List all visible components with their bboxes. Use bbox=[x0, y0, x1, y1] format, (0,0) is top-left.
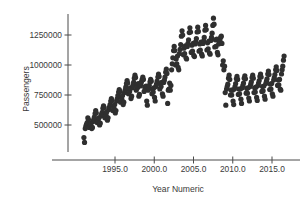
data-point bbox=[251, 76, 256, 81]
data-point bbox=[133, 75, 138, 80]
data-point bbox=[237, 91, 242, 96]
data-point bbox=[204, 27, 209, 32]
data-point bbox=[280, 64, 285, 69]
data-point bbox=[253, 89, 258, 94]
data-point bbox=[219, 34, 224, 39]
data-point bbox=[215, 52, 220, 57]
data-point bbox=[137, 92, 142, 97]
data-point bbox=[235, 77, 240, 82]
x-tick-label: 1995.0 bbox=[102, 164, 128, 174]
data-point bbox=[98, 121, 103, 126]
data-point bbox=[268, 86, 273, 91]
data-point bbox=[184, 56, 189, 61]
data-point bbox=[188, 29, 193, 34]
y-tick-label: 1000000 bbox=[29, 60, 62, 70]
data-point bbox=[145, 103, 150, 108]
data-point bbox=[274, 68, 279, 73]
data-point bbox=[281, 53, 286, 58]
data-point bbox=[169, 67, 174, 72]
x-tick-label: 2005.0 bbox=[181, 164, 207, 174]
data-point bbox=[262, 97, 267, 102]
data-point bbox=[270, 94, 275, 99]
data-point bbox=[225, 82, 230, 87]
data-point bbox=[211, 22, 216, 27]
data-point bbox=[129, 94, 134, 99]
data-point bbox=[243, 76, 248, 81]
data-point bbox=[113, 108, 118, 113]
data-point bbox=[222, 64, 227, 69]
y-tick-label: 500000 bbox=[34, 120, 62, 130]
data-point bbox=[180, 32, 185, 37]
data-point bbox=[125, 80, 130, 85]
data-point bbox=[90, 125, 95, 130]
data-point bbox=[141, 77, 146, 82]
x-tick-label: 2000.0 bbox=[141, 164, 167, 174]
data-point bbox=[192, 54, 197, 59]
data-point bbox=[172, 48, 177, 53]
data-point bbox=[176, 67, 181, 72]
data-point bbox=[219, 41, 224, 46]
data-point bbox=[160, 94, 165, 99]
data-point bbox=[247, 98, 252, 103]
data-point bbox=[255, 98, 260, 103]
data-point bbox=[196, 29, 201, 34]
y-tick-label: 750000 bbox=[34, 90, 62, 100]
data-point bbox=[153, 98, 158, 103]
data-point bbox=[223, 103, 228, 108]
data-point bbox=[239, 101, 244, 106]
x-tick-label: 2015.0 bbox=[259, 164, 285, 174]
data-point bbox=[211, 16, 216, 21]
data-point bbox=[210, 31, 215, 36]
data-point bbox=[81, 135, 86, 140]
data-point bbox=[202, 35, 207, 40]
data-point bbox=[200, 53, 205, 58]
data-point bbox=[168, 88, 173, 93]
data-point bbox=[227, 77, 232, 82]
data-point bbox=[149, 79, 154, 84]
y-axis-title: Passengers bbox=[21, 66, 31, 111]
y-tick-label: 1250000 bbox=[29, 30, 62, 40]
x-axis-title: Year Numeric bbox=[152, 184, 204, 194]
data-point bbox=[208, 52, 213, 57]
data-point bbox=[245, 91, 250, 96]
x-tick-label: 2010.0 bbox=[220, 164, 246, 174]
data-point bbox=[94, 110, 99, 115]
data-point bbox=[165, 101, 170, 106]
data-point bbox=[164, 71, 169, 76]
data-point bbox=[82, 140, 87, 145]
data-point bbox=[105, 115, 110, 120]
data-point bbox=[168, 83, 173, 88]
data-point bbox=[229, 92, 234, 97]
chart-canvas: 50000075000010000001250000 1995.02000.02… bbox=[0, 0, 307, 209]
data-point bbox=[221, 58, 226, 63]
data-point bbox=[266, 72, 271, 77]
data-point bbox=[278, 88, 283, 93]
scatter-chart: 50000075000010000001250000 1995.02000.02… bbox=[0, 0, 307, 209]
data-point bbox=[194, 36, 199, 41]
data-point bbox=[231, 102, 236, 107]
data-point bbox=[121, 100, 126, 105]
data-point bbox=[261, 88, 266, 93]
data-point bbox=[277, 77, 282, 82]
data-point bbox=[157, 74, 162, 79]
data-point bbox=[186, 37, 191, 42]
data-point bbox=[259, 74, 264, 79]
